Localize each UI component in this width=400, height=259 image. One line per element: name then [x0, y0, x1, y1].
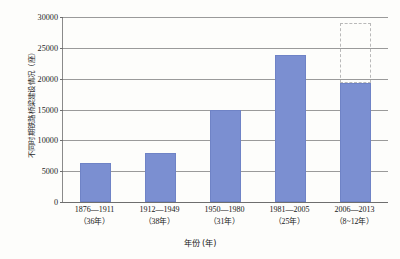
y-tick-mark [60, 202, 63, 203]
bar [210, 110, 241, 203]
projected-extension-box [340, 23, 371, 83]
bar [145, 153, 176, 202]
x-tick-label-period: 1950—1980 [205, 205, 245, 214]
y-tick-label: 15000 [16, 105, 58, 114]
x-axis-line [63, 202, 388, 203]
x-tick-label: 1981—2005（25年） [257, 204, 322, 227]
x-tick-label-duration: （8~12年） [322, 216, 387, 228]
x-tick-label-period: 1981—2005 [270, 205, 310, 214]
y-tick-label: 25000 [16, 43, 58, 52]
y-tick-label: 10000 [16, 136, 58, 145]
x-tick-label: 1950—1980（31年） [192, 204, 257, 227]
x-axis-title: 年份 (年) [0, 236, 400, 248]
y-tick-mark [60, 140, 63, 141]
y-tick-mark [60, 17, 63, 18]
x-tick-label: 2006—2013（8~12年） [322, 204, 387, 227]
bar [340, 83, 371, 202]
x-axis-tick-labels: 1876—1911（36年）1912—1949（38年）1950—1980（31… [62, 204, 387, 238]
y-tick-mark [60, 110, 63, 111]
y-tick-label: 20000 [16, 74, 58, 83]
y-tick-mark [60, 48, 63, 49]
y-tick-label: 30000 [16, 13, 58, 22]
x-tick-label-duration: （25年） [257, 216, 322, 228]
x-tick-label-duration: （31年） [192, 216, 257, 228]
y-tick-mark [60, 79, 63, 80]
y-tick-label: 5000 [16, 167, 58, 176]
y-tick-mark [60, 171, 63, 172]
y-axis-tick-labels: 050001000015000200002500030000 [10, 0, 58, 259]
x-tick-label-period: 2006—2013 [335, 205, 375, 214]
bar [275, 55, 306, 202]
x-tick-label-duration: （38年） [127, 216, 192, 228]
x-tick-label: 1912—1949（38年） [127, 204, 192, 227]
x-tick-label-duration: （36年） [62, 216, 127, 228]
plot-area [62, 17, 388, 202]
x-tick-label: 1876—1911（36年） [62, 204, 127, 227]
bar-chart: 不同时期铁路桥梁建设情况（座） 050001000015000200002500… [0, 0, 400, 259]
x-tick-label-period: 1912—1949 [140, 205, 180, 214]
y-tick-label: 0 [16, 198, 58, 207]
bar [80, 163, 111, 202]
gridline [63, 17, 388, 18]
x-tick-label-period: 1876—1911 [75, 205, 115, 214]
